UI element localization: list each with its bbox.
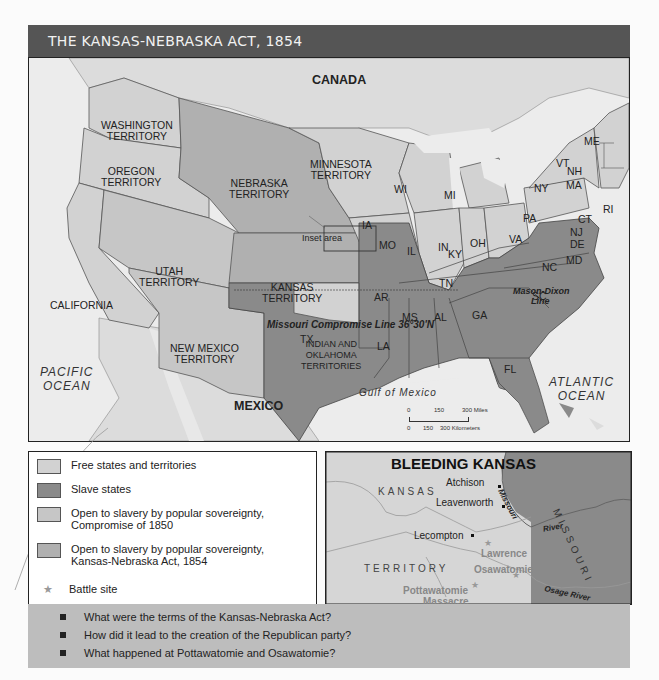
label-nebraska-territory: NEBRASKATERRITORY <box>229 178 289 200</box>
label-ga: GA <box>472 310 487 321</box>
bullet-icon <box>60 614 66 620</box>
legend-label-free: Free states and territories <box>71 459 196 471</box>
map-title: THE KANSAS-NEBRASKA ACT, 1854 <box>48 25 302 57</box>
nm-line2: TERRITORY <box>170 354 239 365</box>
label-va: VA <box>509 234 522 245</box>
label-kansas-territory: KANSASTERRITORY <box>262 282 322 304</box>
label-pacific-ocean: PACIFIC OCEAN <box>40 365 93 393</box>
page: THE KANSAS-NEBRASKA ACT, 1854 <box>0 0 659 680</box>
scale-mi-300: 300 Miles <box>462 407 488 413</box>
scale-km-150: 150 <box>423 425 433 431</box>
label-sc: SC <box>532 291 547 302</box>
question-text-2: How did it lead to the creation of the R… <box>84 629 351 641</box>
star-icon: ★ <box>471 580 479 590</box>
scale-bar: 0 150 300 Miles 0 150 300 Kilometers <box>407 407 507 437</box>
label-washington-territory: WASHINGTONTERRITORY <box>101 120 173 142</box>
label-fl: FL <box>504 364 516 375</box>
question-text-1: What were the terms of the Kansas-Nebras… <box>84 611 331 623</box>
swatch-popular-1850 <box>37 507 61 522</box>
town-leavenworth: Leavenworth <box>436 497 493 508</box>
battle-osawatomie: Osawatomie <box>474 564 533 575</box>
label-pa: PA <box>523 213 536 224</box>
scale-km-300: 300 Kilometers <box>440 425 480 431</box>
legend-label-popular-1850: Open to slavery by popular sovereignty, … <box>71 507 264 531</box>
bullet-icon <box>60 650 66 656</box>
main-map: CANADA MEXICO PACIFIC OCEAN ATLANTIC OCE… <box>28 57 630 442</box>
label-mi: MI <box>444 190 456 201</box>
utah-line2: TERRITORY <box>139 277 199 288</box>
label-ar: AR <box>374 292 389 303</box>
kan-line2: TERRITORY <box>262 293 322 304</box>
label-ia: IA <box>362 220 372 231</box>
label-la: LA <box>377 341 390 352</box>
dot-atchison <box>498 485 501 488</box>
legend-item-free: Free states and territories <box>37 459 196 474</box>
question-2: How did it lead to the creation of the R… <box>60 629 351 641</box>
map-svg <box>29 58 629 441</box>
label-md: MD <box>566 255 582 266</box>
label-ct: CT <box>578 214 592 225</box>
scale-mi-0: 0 <box>407 407 410 413</box>
label-wi: WI <box>394 184 407 195</box>
inset-label-territory: TERRITORY <box>364 563 448 574</box>
question-text-3: What happened at Pottawatomie and Osawat… <box>84 647 335 659</box>
legend-1854-line1: Open to slavery by popular sovereignty, <box>71 543 264 555</box>
legend-item-popular-1850: Open to slavery by popular sovereignty, … <box>37 507 264 531</box>
town-lecompton: Lecompton <box>414 530 463 541</box>
questions-box: What were the terms of the Kansas-Nebras… <box>28 604 630 668</box>
legend-item-slave: Slave states <box>37 483 131 498</box>
legend-1850-line1: Open to slavery by popular sovereignty, <box>71 507 264 519</box>
atlantic-line1: ATLANTIC <box>549 375 614 389</box>
swatch-popular-1854 <box>37 543 61 558</box>
legend-item-popular-1854: Open to slavery by popular sovereignty, … <box>37 543 264 567</box>
ind-line3: TERRITORIES <box>301 361 361 372</box>
label-tn: TN <box>439 278 453 289</box>
pacific-line2: OCEAN <box>40 379 93 393</box>
title-bar: THE KANSAS-NEBRASKA ACT, 1854 <box>28 25 630 57</box>
scale-line <box>409 417 469 422</box>
label-in: IN <box>438 242 449 253</box>
legend: Free states and territories Slave states… <box>28 451 317 605</box>
minn-line2: TERRITORY <box>310 170 372 181</box>
label-inset-area: Inset area <box>302 233 342 244</box>
label-canada: CANADA <box>312 75 366 86</box>
label-ma: MA <box>566 180 582 191</box>
label-nh: NH <box>567 166 582 177</box>
legend-label-slave: Slave states <box>71 483 131 495</box>
legend-label-popular-1854: Open to slavery by popular sovereignty, … <box>71 543 264 567</box>
question-3: What happened at Pottawatomie and Osawat… <box>60 647 335 659</box>
battle-pottawatomie: Pottawatomie <box>403 585 468 596</box>
label-il: IL <box>407 246 416 257</box>
pacific-line1: PACIFIC <box>40 365 93 379</box>
label-atlantic-ocean: ATLANTIC OCEAN <box>549 375 614 403</box>
neb-line2: TERRITORY <box>229 189 289 200</box>
label-ri: RI <box>603 204 614 215</box>
label-oregon-territory: OREGONTERRITORY <box>101 166 161 188</box>
scale-mi-150: 150 <box>434 407 444 413</box>
legend-1850-line2: Compromise of 1850 <box>71 519 264 531</box>
legend-label-battle: Battle site <box>69 583 117 595</box>
label-de: DE <box>570 239 585 250</box>
label-nj: NJ <box>570 227 583 238</box>
ind-line2: OKLAHOMA <box>301 350 361 361</box>
label-mexico: MEXICO <box>234 401 283 412</box>
inset-title: BLEEDING KANSAS <box>391 458 536 469</box>
scale-km-0: 0 <box>407 425 410 431</box>
ore-line2: TERRITORY <box>101 177 161 188</box>
label-oh: OH <box>470 238 486 249</box>
label-california: CALIFORNIA <box>50 300 113 311</box>
bullet-icon <box>60 632 66 638</box>
swatch-slave <box>37 483 61 498</box>
star-icon: ★ <box>484 538 492 548</box>
legend-item-battle: ★ Battle site <box>37 583 117 595</box>
label-me: ME <box>584 136 600 147</box>
label-minnesota-territory: MINNESOTATERRITORY <box>310 159 372 181</box>
inset-map-bleeding-kansas: BLEEDING KANSAS KANSAS TERRITORY MISSOUR… <box>325 451 632 605</box>
legend-1854-line2: Kansas-Nebraska Act, 1854 <box>71 555 264 567</box>
battle-lawrence: Lawrence <box>481 548 527 559</box>
label-ky: KY <box>448 249 462 260</box>
question-1: What were the terms of the Kansas-Nebras… <box>60 611 331 623</box>
label-al: AL <box>434 312 447 323</box>
inset-label-kansas: KANSAS <box>378 486 437 497</box>
label-ny: NY <box>534 183 549 194</box>
